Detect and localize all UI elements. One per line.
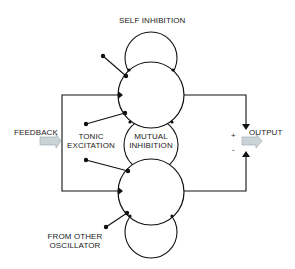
mutual-line1: MUTUAL: [126, 132, 176, 141]
output-line-bottom: [184, 157, 246, 191]
output-label: OUTPUT: [249, 128, 283, 137]
output-line-top: [184, 95, 246, 124]
oscillator-label: FROM OTHER OSCILLATOR: [40, 232, 110, 250]
feedback-label: FEEDBACK: [14, 128, 58, 137]
tonic-label: TONIC EXCITATION: [67, 132, 115, 150]
tonic-line1: TONIC: [67, 132, 115, 141]
tonic-line2: EXCITATION: [67, 141, 115, 150]
oscillator-line2: OSCILLATOR: [40, 241, 110, 250]
oscillator-line1: FROM OTHER: [40, 232, 110, 241]
minus-sign: -: [232, 145, 235, 154]
self-inhibition-label: SELF INHIBITION: [119, 16, 185, 25]
mutual-line2: INHIBITION: [126, 141, 176, 150]
top-neuron: [118, 62, 184, 128]
output-minus-arrow: [242, 151, 250, 157]
mutual-inhibition-label: MUTUAL INHIBITION: [126, 132, 176, 150]
plus-sign: +: [231, 131, 236, 140]
